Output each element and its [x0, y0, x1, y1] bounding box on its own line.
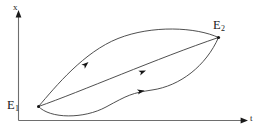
point-marker-e2: [217, 36, 220, 39]
point-label-e2: E2: [213, 19, 225, 32]
t-axis-label: t: [250, 114, 253, 123]
figure-root: x t E1 E2: [0, 0, 270, 134]
point-label-e1-subscript: 1: [15, 104, 19, 113]
t-axis-arrowhead-icon: [241, 118, 248, 124]
upper-trajectory-curve: [39, 29, 219, 107]
middle-trajectory-curve: [39, 38, 219, 107]
middle-trajectory-arrowhead-icon: [138, 68, 147, 75]
upper-trajectory-arrowhead-icon: [81, 60, 90, 69]
point-marker-e1: [37, 105, 40, 108]
point-label-e1-base: E: [7, 98, 15, 112]
x-axis-label: x: [13, 3, 18, 12]
diagram-canvas: [0, 0, 270, 134]
trajectories-group: [39, 29, 219, 116]
point-label-e2-base: E: [213, 18, 221, 32]
point-label-e2-subscript: 2: [221, 24, 225, 33]
point-label-e1: E1: [7, 99, 19, 112]
